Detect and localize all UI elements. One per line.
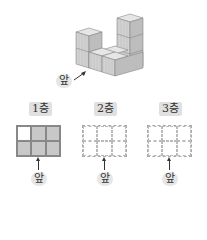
grid-cell[interactable] bbox=[112, 126, 126, 141]
floor-1-grid bbox=[16, 125, 61, 157]
grid-cell[interactable] bbox=[162, 126, 176, 141]
floor-3-label: 3층 bbox=[159, 102, 182, 116]
front-label: 앞 bbox=[162, 172, 178, 186]
up-arrow-icon bbox=[169, 160, 170, 170]
grid-cell[interactable] bbox=[83, 141, 97, 156]
grid-cell[interactable] bbox=[148, 141, 162, 156]
floor-2-grid[interactable] bbox=[82, 125, 127, 157]
grid-cell bbox=[46, 141, 60, 156]
grid-cell bbox=[17, 126, 31, 141]
front-label: 앞 bbox=[31, 172, 47, 186]
grid-cell bbox=[46, 126, 60, 141]
grid-cell[interactable] bbox=[83, 126, 97, 141]
arrow-icon bbox=[73, 70, 87, 82]
front-label: 앞 bbox=[97, 172, 113, 186]
grid-cell[interactable] bbox=[162, 141, 176, 156]
grid-cell[interactable] bbox=[177, 141, 191, 156]
up-arrow-icon bbox=[104, 160, 105, 170]
grid-cell[interactable] bbox=[97, 126, 111, 141]
grid-cell[interactable] bbox=[97, 141, 111, 156]
grid-cell[interactable] bbox=[177, 126, 191, 141]
grid-cell[interactable] bbox=[112, 141, 126, 156]
grid-cell[interactable] bbox=[148, 126, 162, 141]
up-arrow-icon bbox=[38, 160, 39, 170]
front-indicator-3d: 앞 bbox=[56, 70, 86, 90]
floor-1-label: 1층 bbox=[29, 102, 52, 116]
grid-cell bbox=[31, 141, 45, 156]
front-label-3d: 앞 bbox=[56, 74, 72, 88]
grid-cell bbox=[17, 141, 31, 156]
floor-3-grid[interactable] bbox=[147, 125, 192, 157]
grid-cell bbox=[31, 126, 45, 141]
floor-2-label: 2층 bbox=[94, 102, 117, 116]
